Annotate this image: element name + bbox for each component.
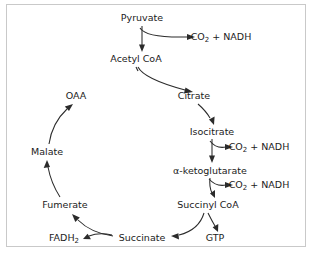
edge-succinyl-coa-to-succinate bbox=[171, 213, 204, 239]
edge-fumerate-to-malate bbox=[44, 160, 60, 197]
edge-citrate-to-isocitrate bbox=[198, 104, 215, 125]
node-label-fadh2: FADH2 bbox=[49, 232, 79, 245]
node-label-co2-nadh-1: CO2 + NADH bbox=[191, 31, 252, 44]
co2-nadh-3-main: CO bbox=[229, 179, 243, 190]
co2-nadh-1-tail: + NADH bbox=[209, 31, 251, 42]
edge-pyruvate-branch-to-co2-nadh bbox=[140, 28, 195, 40]
node-label-acetyl-coa: Acetyl CoA bbox=[110, 53, 162, 64]
node-label-alpha-ketoglutarate: α-ketoglutarate bbox=[173, 165, 247, 176]
svg-text:FADH2: FADH2 bbox=[49, 232, 79, 245]
edge-acetyl-coa-stub bbox=[136, 67, 138, 71]
co2-nadh-2-tail: + NADH bbox=[247, 141, 289, 152]
node-label-gtp: GTP bbox=[206, 232, 225, 243]
node-label-succinate: Succinate bbox=[119, 232, 166, 243]
co2-nadh-1-main: CO bbox=[191, 31, 205, 42]
edge-malate-to-oaa bbox=[49, 104, 73, 144]
node-label-co2-nadh-3: CO2 + NADH bbox=[229, 179, 290, 192]
node-label-fumerate: Fumerate bbox=[42, 199, 88, 210]
svg-text:CO2 + NADH: CO2 + NADH bbox=[229, 141, 290, 154]
krebs-cycle-canvas: Pyruvate CO2 + NADH Acetyl CoA OAA Citra… bbox=[7, 5, 307, 248]
node-label-isocitrate: Isocitrate bbox=[190, 126, 235, 137]
node-label-pyruvate: Pyruvate bbox=[121, 12, 163, 23]
node-label-succinyl-coa: Succinyl CoA bbox=[177, 199, 239, 210]
node-label-malate: Malate bbox=[31, 146, 63, 157]
edge-succinate-to-fumerate bbox=[72, 214, 113, 236]
svg-text:CO2 + NADH: CO2 + NADH bbox=[191, 31, 252, 44]
edge-succinyl-coa-branch-to-gtp bbox=[208, 213, 218, 232]
co2-nadh-3-tail: + NADH bbox=[247, 179, 289, 190]
fadh2-main: FADH bbox=[49, 232, 75, 243]
edge-succinate-branch-to-fadh2 bbox=[83, 234, 112, 239]
fadh2-sub: 2 bbox=[75, 237, 79, 245]
node-label-co2-nadh-2: CO2 + NADH bbox=[229, 141, 290, 154]
node-label-oaa: OAA bbox=[66, 90, 87, 101]
node-label-citrate: Citrate bbox=[178, 90, 210, 101]
svg-text:CO2 + NADH: CO2 + NADH bbox=[229, 179, 290, 192]
krebs-cycle-diagram-frame: Pyruvate CO2 + NADH Acetyl CoA OAA Citra… bbox=[6, 4, 306, 247]
co2-nadh-2-main: CO bbox=[229, 141, 243, 152]
